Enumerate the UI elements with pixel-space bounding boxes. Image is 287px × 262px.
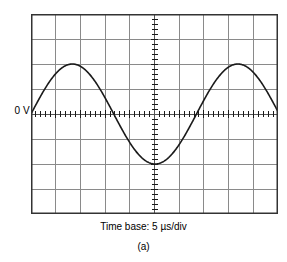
panel-caption: (a) [0, 241, 287, 253]
graticule-and-trace [31, 14, 278, 214]
timebase-caption: Time base: 5 µs/div [0, 221, 287, 233]
scope-screen [31, 14, 278, 214]
zero-volt-label: 0 V [2, 105, 30, 116]
oscilloscope-display-figure: 0 V [0, 0, 287, 262]
